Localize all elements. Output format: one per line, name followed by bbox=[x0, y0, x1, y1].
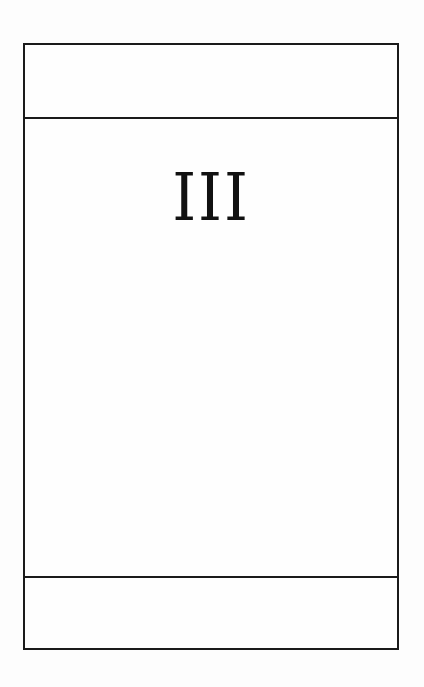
roman-numeral: III bbox=[40, 165, 382, 231]
tarot-card-frame: III bbox=[23, 43, 399, 650]
top-band bbox=[25, 45, 397, 119]
bottom-band bbox=[25, 576, 397, 648]
